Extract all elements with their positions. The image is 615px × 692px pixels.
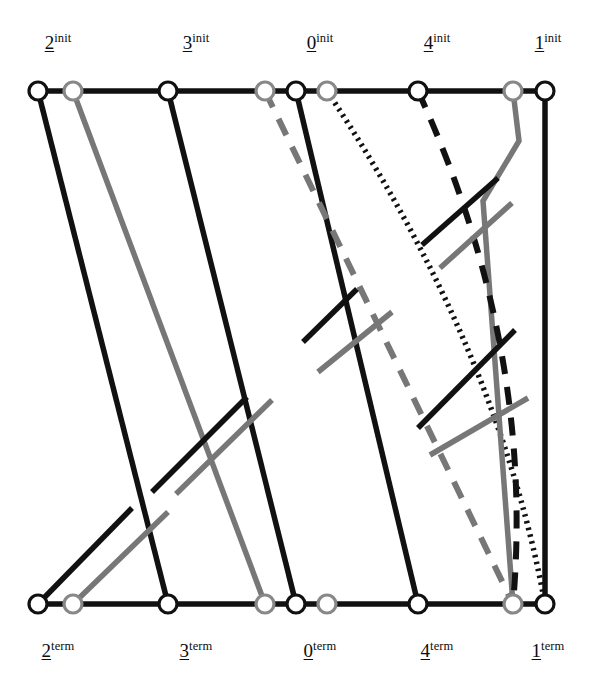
endpoint-label-0-bottom: 0term [304, 640, 337, 660]
endpoint-label-2-bottom: 2term [42, 640, 75, 660]
endpoint-label-superscript: term [51, 639, 74, 653]
endpoint-label-superscript: init [192, 31, 209, 45]
strand-black-solid-0 [296, 91, 418, 604]
endpoint-label-superscript: init [433, 31, 450, 45]
endpoint-label-1-bottom: 1term [532, 640, 565, 660]
cross-gray-3 [318, 312, 392, 372]
endpoint-label-digit: 4 [424, 32, 434, 53]
strand-gray-dashed-0 [265, 91, 513, 604]
braid-node-top-2[interactable] [159, 82, 177, 100]
braid-node-bottom-3[interactable] [256, 595, 274, 613]
braid-node-bottom-4[interactable] [287, 595, 305, 613]
braid-node-top-7[interactable] [504, 82, 522, 100]
braid-node-top-3[interactable] [256, 82, 274, 100]
braid-canvas [0, 0, 615, 692]
endpoint-label-digit: 3 [180, 640, 190, 661]
endpoint-label-superscript: init [54, 31, 71, 45]
cross-gray-4 [440, 203, 512, 268]
endpoint-label-superscript: term [430, 639, 453, 653]
endpoint-label-digit: 3 [183, 32, 193, 53]
braid-diagram-figure: 2init3init0init4init1init2term3term0term… [0, 0, 615, 692]
braid-node-bottom-2[interactable] [159, 595, 177, 613]
endpoint-label-3-top: 3init [183, 32, 210, 52]
endpoint-label-superscript: term [189, 639, 212, 653]
endpoint-label-digit: 0 [307, 32, 317, 53]
endpoint-label-superscript: init [544, 31, 561, 45]
endpoint-label-digit: 1 [535, 32, 545, 53]
endpoint-label-3-bottom: 3term [180, 640, 213, 660]
braid-node-bottom-8[interactable] [536, 595, 554, 613]
braid-node-bottom-0[interactable] [29, 595, 47, 613]
endpoint-label-digit: 1 [532, 640, 542, 661]
braid-node-bottom-6[interactable] [409, 595, 427, 613]
braid-node-bottom-1[interactable] [64, 595, 82, 613]
endpoint-label-digit: 2 [42, 640, 52, 661]
braid-node-top-0[interactable] [29, 82, 47, 100]
braid-node-bottom-7[interactable] [504, 595, 522, 613]
endpoint-label-superscript: init [316, 31, 333, 45]
strand-black-solid-3 [168, 91, 296, 604]
braid-node-top-8[interactable] [536, 82, 554, 100]
endpoint-label-4-top: 4init [424, 32, 451, 52]
endpoint-label-digit: 0 [304, 640, 314, 661]
cross-black-2 [152, 397, 247, 492]
braid-node-top-1[interactable] [64, 82, 82, 100]
endpoint-label-1-top: 1init [535, 32, 562, 52]
braid-node-bottom-5[interactable] [318, 595, 336, 613]
endpoint-label-4-bottom: 4term [421, 640, 454, 660]
endpoint-label-superscript: term [541, 639, 564, 653]
endpoint-label-digit: 2 [45, 32, 55, 53]
braid-node-top-5[interactable] [318, 82, 336, 100]
endpoint-label-superscript: term [313, 639, 336, 653]
braid-node-top-6[interactable] [409, 82, 427, 100]
endpoint-label-digit: 4 [421, 640, 431, 661]
braid-node-top-4[interactable] [287, 82, 305, 100]
endpoint-label-2-top: 2init [45, 32, 72, 52]
endpoint-label-0-top: 0init [307, 32, 334, 52]
